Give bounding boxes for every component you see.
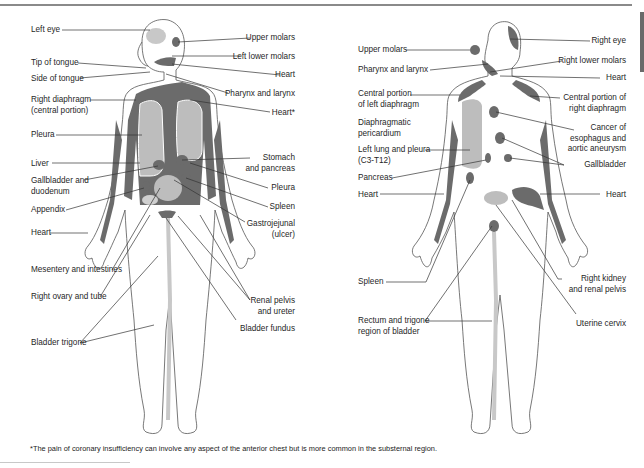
label-left-lower-molars: Left lower molars (210, 52, 295, 63)
label-heart-asterisk: Heart* (240, 108, 295, 119)
label-right-eye: Right eye (560, 36, 626, 47)
label-gallbladder-back: Gallbladder (560, 160, 626, 171)
label-uterine-cervix: Uterine cervix (550, 319, 626, 330)
label-renal-pelvis-ureter: Renal pelvis and ureter (220, 296, 295, 317)
label-heart-front-left: Heart (31, 228, 51, 239)
label-upper-molars-front: Upper molars (220, 33, 295, 44)
label-heart-back-left: Heart (358, 190, 378, 201)
label-side-of-tongue: Side of tongue (31, 74, 84, 85)
label-left-eye: Left eye (31, 25, 60, 36)
label-left-lung-pleura: Left lung and pleura (C3-T12) (358, 145, 430, 166)
label-gallbladder-duodenum: Gallbladder and duodenum (31, 176, 89, 197)
label-pancreas: Pancreas (358, 173, 393, 184)
label-tip-of-tongue: Tip of tongue (31, 58, 79, 69)
label-right-kidney-renal-pelvis: Right kidney and renal pelvis (550, 274, 626, 295)
label-pleura-front-right: Pleura (240, 183, 295, 194)
label-right-ovary-tube: Right ovary and tube (31, 292, 107, 303)
label-heart-back-1: Heart (580, 73, 626, 84)
label-pharynx-larynx-front: Pharynx and larynx (210, 89, 295, 100)
label-bladder-fundus: Bladder fundus (220, 324, 295, 335)
label-stomach-pancreas: Stomach and pancreas (220, 153, 295, 174)
label-cancer-esophagus-aortic: Cancer of esophagus and aortic aneurysm (550, 123, 626, 155)
label-right-diaphragm: Right diaphragm (central portion) (31, 95, 91, 116)
label-mesentery-intestines: Mesentery and intestines (31, 265, 122, 276)
label-central-left-diaphragm: Central portion of left diaphragm (358, 89, 419, 110)
label-pharynx-larynx-back: Pharynx and larynx (358, 65, 428, 76)
label-spleen-front: Spleen (240, 202, 295, 213)
label-gastrojejunal-ulcer: Gastrojejunal (ulcer) (220, 219, 295, 240)
label-right-lower-molars: Right lower molars (540, 56, 626, 67)
label-central-right-diaphragm: Central portion of right diaphragm (540, 93, 626, 114)
label-heart-back-right: Heart (580, 190, 626, 201)
label-upper-molars-back: Upper molars (358, 45, 407, 56)
label-rectum-trigone: Rectum and trigone region of bladder (358, 316, 429, 337)
footnote: *The pain of coronary insufficiency can … (30, 444, 437, 453)
label-liver: Liver (31, 159, 49, 170)
label-diaphragmatic-pericardium: Diaphragmatic pericardium (358, 118, 411, 139)
label-heart-front-1: Heart (240, 70, 295, 81)
label-bladder-trigone: Bladder trigone (31, 338, 87, 349)
back-pain-areas (434, 26, 566, 420)
label-spleen-back: Spleen (358, 277, 384, 288)
label-appendix: Appendix (31, 205, 65, 216)
label-pleura-front: Pleura (31, 130, 55, 141)
referred-pain-illustration (0, 0, 644, 468)
